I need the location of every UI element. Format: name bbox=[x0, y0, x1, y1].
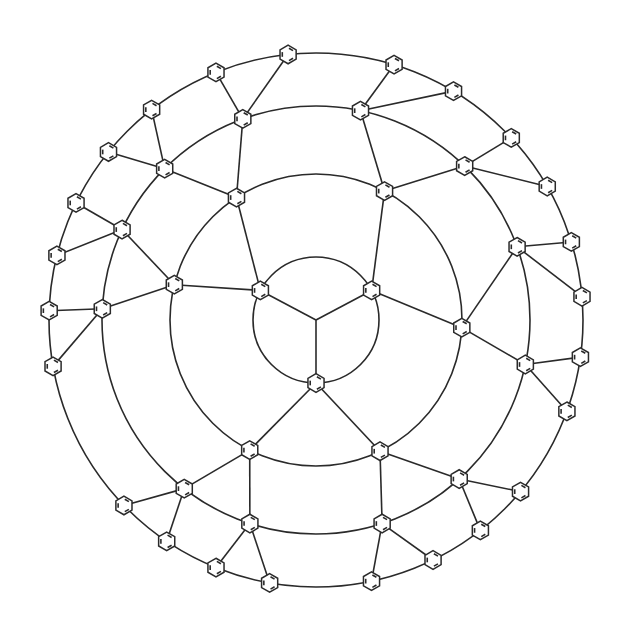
benzene-ring-icon bbox=[114, 220, 130, 239]
bond-line bbox=[236, 119, 242, 198]
benzene-ring-icon bbox=[503, 129, 519, 148]
benzene-ring-icon bbox=[445, 82, 461, 101]
bond-line bbox=[525, 364, 567, 411]
bond-line bbox=[124, 489, 184, 506]
benzene-ring-icon bbox=[68, 194, 84, 213]
benzene-ring-icon bbox=[352, 101, 368, 120]
bond-line bbox=[517, 247, 582, 297]
benzene-ring-icon bbox=[364, 281, 380, 300]
benzene-ring-icon bbox=[559, 402, 575, 421]
benzene-ring-icon bbox=[100, 143, 116, 162]
bond-line bbox=[122, 230, 174, 285]
bond-line bbox=[360, 111, 384, 191]
benzene-ring-icon bbox=[308, 374, 324, 393]
benzene-ring-icon bbox=[262, 574, 278, 593]
benzene-ring-icon bbox=[242, 441, 258, 460]
benzene-ring-icon bbox=[157, 159, 173, 178]
bond-line bbox=[380, 451, 459, 479]
benzene-ring-icon bbox=[425, 551, 441, 570]
benzene-ring-icon bbox=[539, 177, 555, 196]
benzene-ring-icon bbox=[376, 182, 392, 201]
bond-line bbox=[165, 169, 237, 198]
benzene-ring-icon bbox=[280, 45, 296, 64]
bond-line bbox=[53, 309, 102, 367]
benzene-ring-icon bbox=[451, 470, 467, 489]
bond-line bbox=[57, 230, 122, 256]
benzene-ring-icon bbox=[509, 238, 525, 257]
benzene-ring-icon bbox=[49, 246, 65, 265]
benzene-ring-icon bbox=[386, 55, 402, 74]
benzene-ring-icon bbox=[574, 287, 590, 306]
bond-line bbox=[380, 451, 382, 523]
bond-line bbox=[462, 247, 517, 328]
bond-line bbox=[184, 450, 249, 489]
bond-line bbox=[236, 198, 260, 291]
bond-line bbox=[372, 290, 462, 327]
benzene-ring-icon bbox=[235, 110, 251, 129]
bond-line bbox=[360, 91, 453, 111]
benzene-ring-icon bbox=[374, 514, 390, 533]
benzene-ring-icon bbox=[252, 281, 268, 300]
bond-line bbox=[372, 191, 385, 290]
benzene-ring-icon bbox=[242, 514, 258, 533]
bond-line bbox=[102, 285, 174, 309]
benzene-ring-icon bbox=[41, 301, 57, 320]
bond-line bbox=[174, 285, 260, 291]
benzene-ring-icon bbox=[166, 275, 182, 294]
benzene-ring-icon bbox=[517, 355, 533, 374]
benzene-ring-icon bbox=[144, 100, 160, 119]
bond-line bbox=[465, 166, 548, 186]
benzene-ring-icon bbox=[159, 532, 175, 551]
benzene-ring-icon bbox=[176, 479, 192, 498]
benzene-ring-icon bbox=[228, 188, 244, 207]
benzene-ring-icon bbox=[454, 318, 470, 337]
benzene-ring-icon bbox=[45, 357, 61, 376]
benzene-ring-icon bbox=[363, 572, 379, 591]
bond-line bbox=[385, 166, 465, 191]
benzene-ring-icon bbox=[457, 157, 473, 176]
benzene-ring-icon bbox=[208, 63, 224, 82]
benzene-ring-icon bbox=[572, 348, 588, 367]
bond-line bbox=[462, 328, 526, 365]
benzene-ring-icon bbox=[208, 558, 224, 577]
bond-line bbox=[250, 383, 316, 450]
bond-line bbox=[316, 383, 380, 451]
benzene-ring-icon bbox=[116, 496, 132, 515]
benzene-ring-icon bbox=[372, 442, 388, 461]
bond-line bbox=[250, 524, 270, 583]
bond-line bbox=[459, 479, 520, 492]
benzene-ring-icon bbox=[563, 233, 579, 252]
benzene-rings bbox=[41, 45, 590, 592]
benzene-ring-icon bbox=[94, 300, 110, 319]
benzene-ring-icon bbox=[512, 482, 528, 501]
dendrimer-diagram bbox=[0, 0, 619, 633]
benzene-ring-icon bbox=[472, 521, 488, 540]
